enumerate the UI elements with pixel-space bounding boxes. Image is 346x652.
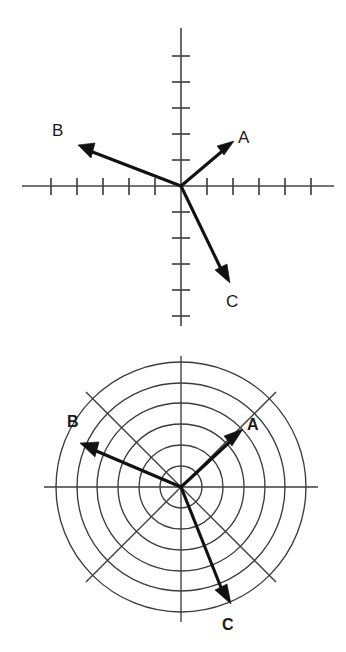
- polar-vector-b-shaft: [94, 450, 181, 487]
- vector-c-shaft: [181, 186, 222, 271]
- polar-vector-a: [181, 429, 243, 487]
- polar-label-c: C: [222, 616, 234, 633]
- cartesian-label-b: B: [52, 121, 63, 140]
- vector-b-arrowhead: [78, 143, 95, 158]
- cartesian-axes: [22, 28, 334, 326]
- cartesian-vector-c: [181, 186, 230, 283]
- polar-vector-c-arrowhead: [215, 584, 231, 604]
- cartesian-vector-diagram: A B C: [0, 0, 346, 330]
- cartesian-label-a: A: [238, 128, 250, 147]
- polar-vector-b-arrowhead: [80, 442, 99, 457]
- vector-a-shaft: [181, 148, 226, 186]
- polar-vector-diagram: A B C: [0, 330, 346, 652]
- vector-c-arrowhead: [215, 264, 230, 283]
- polar-vector-c-shaft: [181, 487, 222, 590]
- cartesian-label-c: C: [226, 292, 238, 311]
- figure-container: A B C A B: [0, 0, 346, 652]
- polar-label-a: A: [247, 416, 259, 433]
- polar-label-b: B: [67, 413, 79, 430]
